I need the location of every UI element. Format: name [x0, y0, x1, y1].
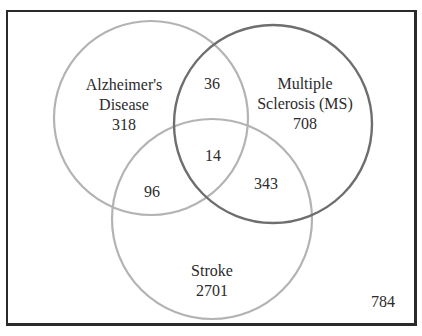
- outside-count: 784: [371, 292, 395, 312]
- ms-name-line2: Sclerosis (MS): [257, 94, 353, 114]
- stroke-label: Stroke 2701: [191, 261, 233, 301]
- alzheimers-stroke-count: 96: [144, 182, 160, 202]
- ms-name-line1: Multiple: [257, 74, 353, 94]
- alzheimers-ms-count: 36: [204, 74, 220, 94]
- alzheimers-only-count: 318: [86, 115, 163, 135]
- ms-stroke-count: 343: [254, 174, 278, 194]
- all-three-count: 14: [205, 146, 221, 166]
- ms-only-count: 708: [257, 114, 353, 134]
- ms-label: Multiple Sclerosis (MS) 708: [257, 74, 353, 134]
- stroke-name-line1: Stroke: [191, 261, 233, 281]
- alzheimers-name-line2: Disease: [86, 95, 163, 115]
- alzheimers-label: Alzheimer's Disease 318: [86, 75, 163, 135]
- alzheimers-name-line1: Alzheimer's: [86, 75, 163, 95]
- stroke-only-count: 2701: [191, 281, 233, 301]
